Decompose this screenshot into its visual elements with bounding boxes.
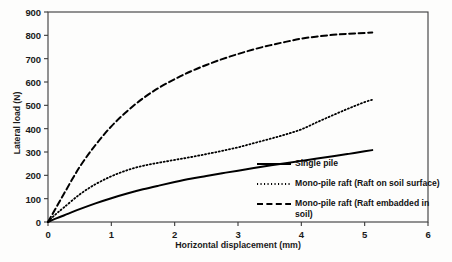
- chart-legend: Single pileMono-pile raft (Raft on soil …: [256, 158, 446, 227]
- legend-item: Single pile: [256, 158, 446, 170]
- x-tick-label: 6: [425, 229, 430, 240]
- y-tick-label: 0: [2, 217, 41, 228]
- legend-line-swatch: [256, 158, 292, 170]
- x-tick-label: 1: [109, 229, 114, 240]
- legend-label: Mono-pile raft (Raft embadded in soil): [295, 198, 446, 219]
- chart-figure: 0100200300400500600700800900 0123456 Lat…: [0, 0, 452, 262]
- x-tick-label: 3: [235, 229, 240, 240]
- x-tick-label: 4: [299, 229, 304, 240]
- y-tick-label: 900: [2, 7, 41, 18]
- y-axis-title: Lateral load (N): [12, 78, 22, 168]
- legend-label: Single pile: [295, 158, 338, 169]
- legend-label: Mono-pile raft (Raft on soil surface): [295, 178, 440, 189]
- x-tick-label: 5: [362, 229, 367, 240]
- y-tick-label: 700: [2, 53, 41, 64]
- legend-line-swatch: [256, 198, 292, 210]
- legend-item: Mono-pile raft (Raft embadded in soil): [256, 198, 446, 219]
- legend-line-swatch: [256, 178, 292, 190]
- y-tick-label: 200: [2, 170, 41, 181]
- x-tick-label: 0: [45, 229, 50, 240]
- y-tick-label: 100: [2, 193, 41, 204]
- x-axis-title: Horizontal displacement (mm): [48, 240, 428, 250]
- legend-item: Mono-pile raft (Raft on soil surface): [256, 178, 446, 190]
- x-tick-label: 2: [172, 229, 177, 240]
- y-tick-label: 800: [2, 30, 41, 41]
